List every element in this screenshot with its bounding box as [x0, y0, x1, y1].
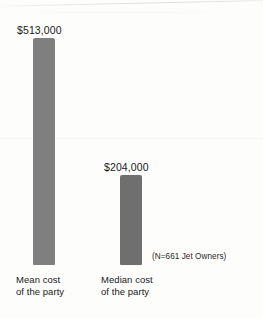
bar-mean: [33, 38, 55, 265]
category-label-mean-line2: of the party: [16, 286, 64, 297]
category-label-median-line2: of the party: [101, 286, 149, 297]
category-label-mean: Mean cost of the party: [16, 274, 64, 297]
bar-value-label-mean: $513,000: [17, 24, 62, 36]
bar-value-label-median: $204,000: [104, 161, 149, 173]
plot-area: $513,000 Mean cost of the party $204,000…: [0, 0, 263, 319]
sample-size-annotation: (N=661 Jet Owners): [152, 252, 226, 261]
category-label-median-line1: Median cost: [101, 274, 153, 285]
bar-chart: $513,000 Mean cost of the party $204,000…: [0, 0, 263, 319]
category-label-median: Median cost of the party: [101, 274, 153, 297]
bar-median: [120, 175, 142, 265]
category-label-mean-line1: Mean cost: [16, 274, 60, 285]
